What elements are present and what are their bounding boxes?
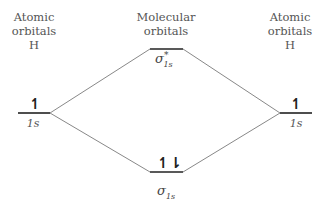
right-header-line1: Atomic <box>262 10 318 24</box>
center-header-line1: Molecular <box>131 10 201 24</box>
center-header-line2: orbitals <box>131 24 201 38</box>
left-header-line1: Atomic <box>6 10 62 24</box>
antibonding-star: * <box>164 50 169 60</box>
right-header: Atomic orbitals H <box>262 10 318 52</box>
connector-antibonding-right <box>183 49 280 113</box>
antibonding-label: σ*1s <box>155 50 173 69</box>
left-electron-up: ↿ <box>29 97 42 112</box>
antibonding-sub: 1s <box>163 60 172 69</box>
right-header-line2: orbitals <box>262 24 318 38</box>
connector-left-antibonding <box>50 49 150 113</box>
center-header: Molecular orbitals <box>131 10 201 38</box>
left-orbital-label: 1s <box>20 117 46 131</box>
bonding-electron-pair: ↿⇂ <box>157 156 182 171</box>
bonding-symbol: σ <box>157 183 166 198</box>
right-orbital-label: 1s <box>283 117 309 131</box>
left-atom-label: H <box>6 38 62 52</box>
bonding-sub: 1s <box>166 192 175 201</box>
left-header-line2: orbitals <box>6 24 62 38</box>
bonding-label: σ1s <box>157 183 175 201</box>
left-header: Atomic orbitals H <box>6 10 62 52</box>
right-electron-up: ↿ <box>290 97 303 112</box>
connector-left-bonding <box>50 113 150 172</box>
right-atom-label: H <box>262 38 318 52</box>
connector-bonding-right <box>183 113 280 172</box>
